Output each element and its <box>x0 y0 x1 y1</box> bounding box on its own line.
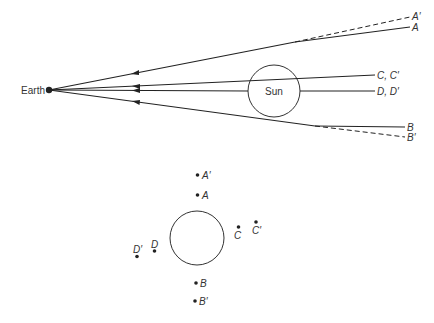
bottom-panel: A′ A C C′ D D′ B B′ <box>133 170 262 307</box>
ray-b-prime-dashed <box>315 126 405 137</box>
star-b-dot <box>194 281 198 285</box>
star-a-label: A <box>201 190 209 201</box>
top-panel: Earth Sun A′ <box>21 11 422 143</box>
ray-b <box>49 90 405 127</box>
star-b-label: B <box>200 278 207 289</box>
star-a-prime-label: A′ <box>201 170 212 181</box>
sun-label: Sun <box>265 86 283 97</box>
star-b-prime-label: B′ <box>199 296 209 307</box>
label-a: A <box>411 22 419 33</box>
star-c-prime-dot <box>254 220 258 224</box>
label-cc: C, C′ <box>377 70 400 81</box>
label-b-prime: B′ <box>407 132 417 143</box>
light-deflection-diagram: Earth Sun A′ <box>0 0 434 323</box>
star-d-prime-dot <box>135 255 139 259</box>
arrow-icon <box>132 88 140 93</box>
star-c-prime-label: C′ <box>252 225 262 236</box>
label-dd: D, D′ <box>377 86 400 97</box>
sun-disk <box>170 211 224 265</box>
star-c-label: C <box>234 230 242 241</box>
star-a-dot <box>196 193 200 197</box>
ray-cc <box>49 75 375 90</box>
arrow-icon <box>132 100 140 105</box>
star-d-prime-label: D′ <box>133 244 143 255</box>
star-d-label: D <box>151 239 158 250</box>
ray-a <box>49 27 410 90</box>
ray-dd <box>49 88 375 93</box>
earth-label: Earth <box>21 85 45 96</box>
label-a-prime: A′ <box>411 11 422 22</box>
star-a-prime-dot <box>196 173 200 177</box>
star-b-prime-dot <box>193 299 197 303</box>
star-c-dot <box>237 225 241 229</box>
